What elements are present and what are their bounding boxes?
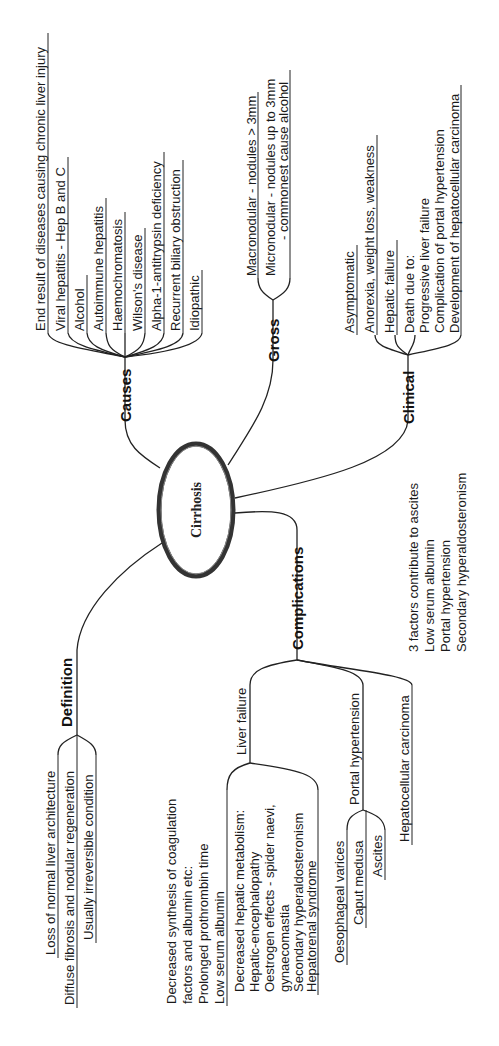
complications-label: Complications: [289, 547, 306, 650]
synthesis-line: Low serum albumin: [212, 891, 227, 1004]
causes-item: Alcohol: [72, 288, 87, 331]
ascites-note-line: Portal hypertension: [438, 540, 453, 652]
ascites-note-line: Secondary hyperaldosteronism: [454, 473, 469, 652]
causes-item: Idiopathic: [187, 275, 202, 331]
causes-item: Haemochromatosis: [110, 219, 125, 331]
center-label: Cirrhosis: [189, 481, 204, 538]
synthesis-line: Prolonged prothrombin time: [196, 844, 211, 1004]
clinical-item: Death due to:: [402, 255, 417, 333]
ascites-note-line: 3 factors contribute to ascites: [406, 482, 421, 652]
clinical-item: Hepatic failure: [382, 250, 397, 333]
cirrhosis-mind-map: Cirrhosis Causes End result of diseases …: [0, 0, 499, 1046]
clinical-item: Development of hepatocellular carcinoma: [447, 93, 462, 333]
definition-label: Definition: [58, 658, 75, 727]
center-node: Cirrhosis: [159, 444, 233, 576]
synthesis-line: factors and albumin etc:: [180, 866, 195, 1004]
metabolism-line: Hepatic-encephalopathy: [247, 851, 262, 992]
causes-item: Viral hepatitis - Hep B and C: [53, 167, 68, 331]
causes-item: Autoimmune hepatitis: [91, 205, 106, 331]
causes-item: Recurrent biliary obstruction: [168, 169, 183, 331]
gross-label: Gross: [265, 319, 282, 362]
portal-item: Ascites: [370, 835, 385, 877]
definition-item: Loss of normal liver architecture: [43, 771, 58, 955]
metabolism-line: gynaecomastia: [277, 904, 292, 992]
clinical-item: Asymptomatic: [342, 251, 357, 333]
causes-branch: Causes End result of diseases causing ch…: [33, 33, 202, 468]
clinical-item: Complication of portal hypertension: [432, 129, 447, 333]
causes-label: Causes: [117, 369, 134, 422]
portal-item: Oesophageal varices: [332, 840, 347, 963]
hcc-label: Hepatocellular carcinoma: [397, 695, 412, 842]
gross-item: Macronodular - nodules > 3mm: [244, 96, 259, 276]
causes-item: Wilson's disease: [130, 235, 145, 331]
metabolism-line: Oestrogen effects - spider naevi,: [262, 804, 277, 992]
portal-hypertension-label: Portal hypertension: [347, 693, 362, 805]
portal-item: Caput medusa: [351, 840, 366, 925]
definition-item: Usually irreversible condition: [81, 775, 96, 940]
clinical-item: Anorexia, weight loss, weakness: [362, 145, 377, 333]
metabolism-line: Decreased hepatic metabolism:: [232, 810, 247, 992]
complications-branch: Complications Liver failure Decreased sy…: [164, 512, 412, 1006]
definition-item: Diffuse fibrosis and nodular regeneratio…: [62, 771, 77, 1005]
gross-item: - commonest cause alcohol: [276, 82, 291, 240]
causes-item: Alpha-1-antitrypsin deficiency: [149, 161, 164, 331]
metabolism-line: Hepatorenal syndrome: [304, 860, 319, 992]
ascites-note: 3 factors contribute to ascites Low seru…: [406, 473, 469, 652]
ascites-note-line: Low serum albumin: [422, 539, 437, 652]
liver-failure-label: Liver failure: [234, 688, 249, 755]
definition-branch: Definition Loss of normal liver architec…: [43, 543, 162, 1008]
gross-branch: Gross Macronodular - nodules > 3mm Micro…: [228, 70, 291, 465]
clinical-item: Progressive liver failure: [417, 198, 432, 333]
clinical-label: Clinical: [400, 371, 417, 424]
causes-item: End result of diseases causing chronic l…: [33, 47, 48, 331]
synthesis-line: Decreased synthesis of coagulation: [164, 799, 179, 1004]
